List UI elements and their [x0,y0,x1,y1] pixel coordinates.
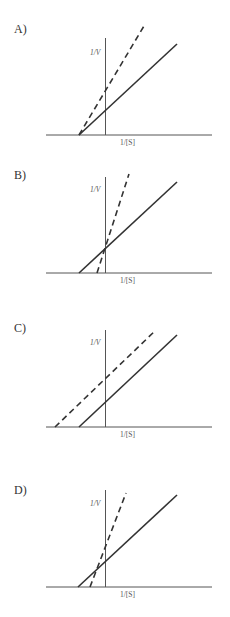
solid-line [78,495,177,587]
solid-line [79,182,177,273]
x-axis-label: 1/[S] [120,276,135,285]
solid-line [79,335,177,427]
x-axis-label: 1/[S] [120,590,135,599]
panel-c: C) 1/V 1/[S] [14,321,212,439]
dashed-line [97,174,129,273]
panel-b: B) 1/V 1/[S] [14,168,212,285]
y-axis-label: 1/V [90,185,102,194]
panel-a: A) 1/V 1/[S] [14,22,212,147]
y-axis-label: 1/V [90,338,102,347]
panel-label: D) [14,483,27,497]
solid-line [79,44,177,135]
lineweaver-burk-plots: A) 1/V 1/[S] B) 1/V 1/[S] C) 1/V 1/[S] D… [0,0,230,617]
dashed-line [79,26,144,135]
y-axis-label: 1/V [90,48,102,57]
x-axis-label: 1/[S] [120,138,135,147]
panel-label: B) [14,168,26,182]
panel-d: D) 1/V 1/[S] [14,483,212,599]
panel-label: A) [14,22,27,36]
y-axis-label: 1/V [90,499,102,508]
panel-label: C) [14,321,26,335]
x-axis-label: 1/[S] [120,430,135,439]
